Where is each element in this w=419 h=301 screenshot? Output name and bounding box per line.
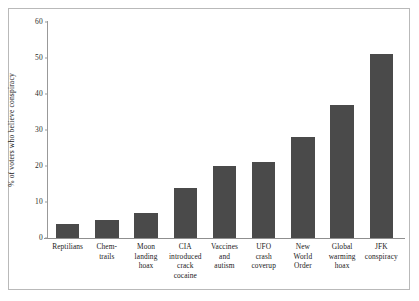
bar <box>291 137 315 238</box>
bar <box>213 166 237 238</box>
bar <box>95 220 119 238</box>
bar <box>252 162 276 238</box>
x-tick-label-line: JFK <box>355 242 408 252</box>
x-axis-tick-labels: ReptiliansChem-trailsMoonlandinghoaxCIAi… <box>48 242 401 294</box>
bar <box>330 105 354 238</box>
x-tick-label-line: hoax <box>315 261 368 271</box>
x-tick-label-line: conspiracy <box>355 252 408 262</box>
x-tick-label: JFKconspiracy <box>355 242 408 261</box>
chart-figure: % of voters who believe conspiracy 01020… <box>0 0 419 301</box>
bar <box>174 188 198 238</box>
bar <box>134 213 158 238</box>
bar-series <box>48 22 401 238</box>
x-axis-line <box>44 238 405 239</box>
plot-area: 0102030405060 <box>48 22 401 238</box>
bar <box>56 224 80 238</box>
bar <box>370 54 394 238</box>
y-axis-title: % of voters who believe conspiracy <box>7 73 16 187</box>
x-tick-label-line: cocaine <box>159 271 212 281</box>
